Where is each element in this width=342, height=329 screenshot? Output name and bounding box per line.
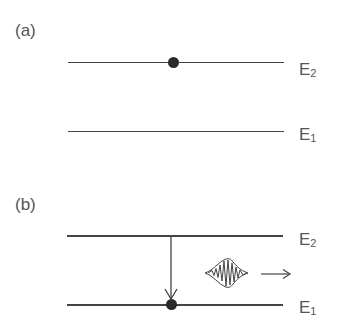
transition-arrow-icon [165, 236, 177, 299]
emission-direction-arrow-icon [261, 270, 290, 279]
transition-graphics [0, 0, 342, 329]
electron-dot-b [166, 299, 177, 310]
photon-wave-packet-icon [205, 259, 248, 288]
